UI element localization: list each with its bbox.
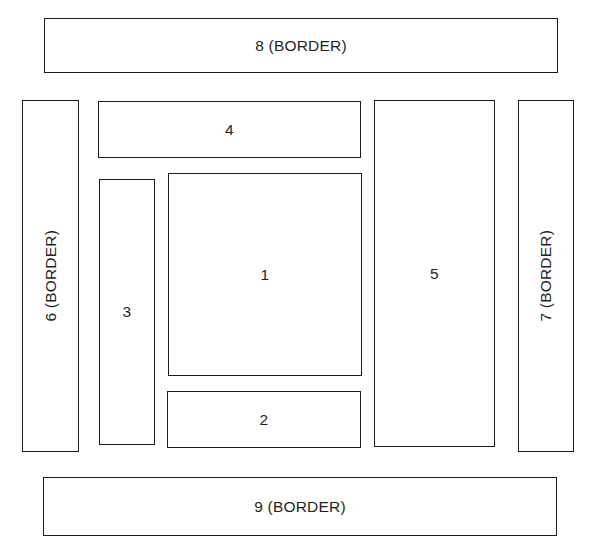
- zone-box-1: 1: [168, 173, 362, 376]
- zone-box-9-border: 9 (BORDER): [43, 477, 557, 536]
- zone-box-6-border: 6 (BORDER): [22, 100, 79, 452]
- zone-label-7: 7 (BORDER): [538, 230, 554, 322]
- zone-box-8-border: 8 (BORDER): [44, 18, 558, 73]
- zone-label-4: 4: [225, 122, 234, 138]
- zone-label-1: 1: [261, 267, 270, 283]
- zone-label-9: 9 (BORDER): [254, 499, 346, 515]
- zone-label-2: 2: [260, 412, 269, 428]
- zone-box-3: 3: [99, 179, 155, 445]
- zone-label-3: 3: [123, 304, 132, 320]
- zone-box-7-border: 7 (BORDER): [518, 100, 574, 452]
- zone-box-5: 5: [374, 100, 495, 447]
- zone-label-8: 8 (BORDER): [255, 38, 347, 54]
- zone-layout-diagram: 8 (BORDER) 6 (BORDER) 4 5 7 (BORDER) 3 1…: [0, 0, 595, 559]
- zone-box-2: 2: [167, 391, 361, 448]
- zone-box-4: 4: [98, 101, 361, 158]
- zone-label-6: 6 (BORDER): [43, 230, 59, 322]
- zone-label-5: 5: [430, 266, 439, 282]
